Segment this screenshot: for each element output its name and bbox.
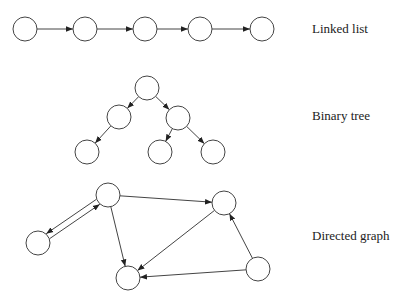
directed-graph-label: Directed graph <box>312 228 390 244</box>
node-circle <box>26 231 50 255</box>
edge-arrow <box>50 204 100 238</box>
node-circle <box>250 17 274 41</box>
node-circle <box>96 183 120 207</box>
edge-arrow <box>95 126 111 143</box>
node-circle <box>13 17 37 41</box>
linked-list-label: Linked list <box>312 21 368 37</box>
node-circle <box>107 105 131 129</box>
edge-arrow <box>111 207 125 267</box>
node-circle <box>201 140 225 164</box>
edge-arrow <box>120 196 212 202</box>
edge-arrow <box>187 126 205 143</box>
node-circle <box>133 17 157 41</box>
node-circle <box>166 106 190 130</box>
edge-arrow <box>140 270 246 277</box>
node-circle <box>75 140 99 164</box>
node-circle <box>135 76 159 100</box>
edge-arrow <box>166 129 173 142</box>
node-circle <box>212 191 236 215</box>
node-circle <box>148 140 172 164</box>
node-circle <box>246 257 270 281</box>
edge-arrow <box>46 199 96 233</box>
edge-arrow <box>127 97 138 109</box>
node-circle <box>188 17 212 41</box>
edge-arrow <box>137 210 214 270</box>
binary-tree-diagram <box>75 76 225 164</box>
linked-list-diagram <box>13 17 274 41</box>
edge-arrow <box>229 214 252 259</box>
node-circle <box>116 266 140 290</box>
binary-tree-label: Binary tree <box>312 108 370 124</box>
node-circle <box>73 17 97 41</box>
directed-graph-diagram <box>26 183 270 290</box>
edge-arrow <box>156 96 170 109</box>
data-structures-diagram <box>0 0 399 302</box>
